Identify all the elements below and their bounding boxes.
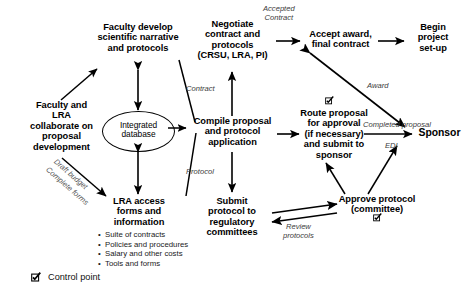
node-accept-award: Accept award, final contract [299,29,382,50]
node-label: Begin project set-up [418,22,449,53]
list-item: •Policies and procedures [98,240,228,250]
node-integrated-database: Integrated database [102,121,175,140]
node-begin-project: Begin project set-up [404,22,462,53]
bullet-dot-icon: • [98,249,105,259]
node-label: LRA access forms and information [113,196,165,227]
node-label: Negotiate contract and protocols (CRSU, … [197,19,267,60]
bullet-dot-icon: • [98,259,105,269]
legend-label: Control point [48,272,100,282]
edge-approve-to-route [326,163,345,194]
node-route-proposal: Route proposal for approval (if necessar… [294,108,374,160]
edge-label-contract: Contract [186,85,215,94]
edge-label-award: Award [367,82,388,91]
node-approve-protocol: Approve protocol (committee) [327,194,427,215]
edge-label-edi: EDI [385,142,398,151]
list-item: •Salary and other costs [98,249,228,259]
node-label: Faculty and LRA collaborate on proposal … [30,100,93,152]
node-label: Faculty develop scientific narrative and… [97,22,178,53]
control-point-checkbox-icon [31,272,41,282]
edge-label-accepted-contract: Accepted Contract [263,5,295,22]
bullet-dot-icon: • [98,240,105,250]
node-label: Route proposal for approval (if necessar… [300,108,367,160]
list-item-label: Tools and forms [105,259,160,268]
bullet-dot-icon: • [98,230,105,240]
list-item-label: Suite of contracts [105,230,165,239]
node-compile-proposal: Compile proposal and protocol applicatio… [181,116,284,147]
control-point-checkbox-icon [373,213,382,222]
list-item-label: Policies and procedures [105,240,188,249]
control-point-checkbox-icon [325,96,334,105]
node-label: Integrated database [120,120,157,139]
node-label: Accept award, final contract [309,29,371,49]
node-negotiate-contract: Negotiate contract and protocols (CRSU, … [186,19,279,61]
node-label: Approve protocol (committee) [339,194,416,214]
edge-label-review-protocols: Review protocols [283,223,314,240]
edge-label-completed-proposal: Completed proposal [363,121,431,130]
node-lra-access: LRA access forms and information [94,196,184,227]
edge-label-protocol: Protocol [186,168,214,177]
node-faculty-develop: Faculty develop scientific narrative and… [80,22,196,53]
list-item-label: Salary and other costs [105,249,183,258]
flowchart-canvas: Faculty and LRA collaborate on proposal … [0,0,474,294]
node-label: Compile proposal and protocol applicatio… [194,116,272,147]
node-label: Submit protocol to regulatory committees [206,196,257,237]
edge-collaborate-to-develop [61,69,97,100]
list-item: •Tools and forms [98,259,228,269]
legend: Control point [31,272,100,282]
node-submit-protocol: Submit protocol to regulatory committees [191,196,273,238]
